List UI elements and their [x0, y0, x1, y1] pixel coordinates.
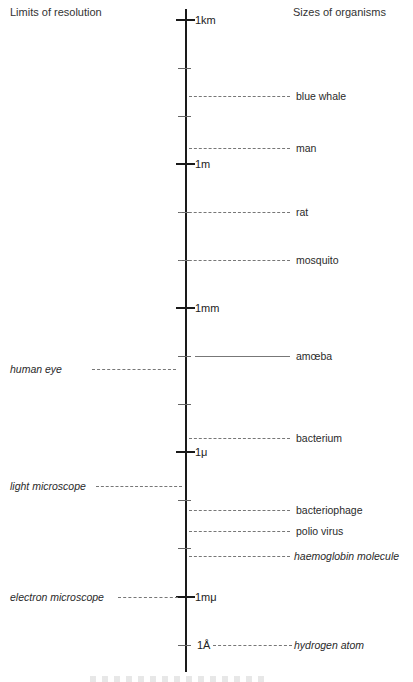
- caption-fragment: [90, 676, 270, 682]
- organism-hydrogen-atom: hydrogen atom: [294, 639, 364, 651]
- resolution-electron-microscope: electron microscope: [10, 591, 104, 603]
- leader-polio-virus: [189, 531, 290, 532]
- tick-label-1millimicron: 1mμ: [195, 591, 217, 603]
- heading-sizes-of-organisms: Sizes of organisms: [293, 6, 386, 18]
- organism-bacteriophage: bacteriophage: [296, 504, 363, 516]
- organism-haemoglobin-molecule: haemoglobin molecule: [294, 550, 399, 562]
- major-tick-1micron: [176, 451, 195, 453]
- resolution-light-microscope: light microscope: [10, 480, 86, 492]
- organism-polio-virus: polio virus: [296, 525, 343, 537]
- tick-label-1angstrom: 1Å: [197, 639, 210, 651]
- major-tick-1millimicron: [176, 596, 195, 598]
- minor-tick: [178, 116, 191, 117]
- tick-label-1km: 1km: [195, 14, 216, 26]
- leader-electron-microscope: [118, 597, 178, 598]
- minor-tick: [178, 500, 191, 501]
- leader-light-microscope: [96, 486, 182, 487]
- leader-bacteriophage: [189, 510, 290, 511]
- minor-tick: [178, 404, 191, 405]
- leader-hydrogen-atom: [213, 645, 292, 646]
- minor-tick: [178, 68, 191, 69]
- organism-rat: rat: [296, 206, 308, 218]
- resolution-human-eye: human eye: [10, 363, 62, 375]
- leader-mosquito: [179, 260, 290, 261]
- organism-man: man: [296, 142, 316, 154]
- organism-blue-whale: blue whale: [296, 90, 346, 102]
- major-tick-1m: [176, 163, 195, 165]
- leader-haemoglobin: [189, 556, 290, 557]
- leader-rat: [179, 212, 290, 213]
- minor-tick: [178, 548, 191, 549]
- heading-limits-of-resolution: Limits of resolution: [10, 6, 102, 18]
- organism-bacterium: bacterium: [296, 432, 342, 444]
- leader-bacterium: [189, 438, 290, 439]
- leader-blue-whale: [189, 96, 290, 97]
- tick-label-1m: 1m: [195, 158, 210, 170]
- organism-amoeba: amœba: [296, 350, 332, 362]
- scale-axis: [185, 9, 187, 672]
- leader-amoeba: [195, 356, 290, 357]
- organism-mosquito: mosquito: [296, 254, 339, 266]
- major-tick-1mm: [176, 307, 195, 309]
- leader-human-eye: [92, 369, 176, 370]
- minor-tick: [178, 356, 191, 357]
- tick-label-1micron: 1μ: [195, 446, 207, 458]
- tick-label-1mm: 1mm: [195, 302, 219, 314]
- leader-man: [189, 148, 290, 149]
- major-tick-1km: [176, 19, 195, 21]
- minor-tick-angstrom: [178, 645, 191, 646]
